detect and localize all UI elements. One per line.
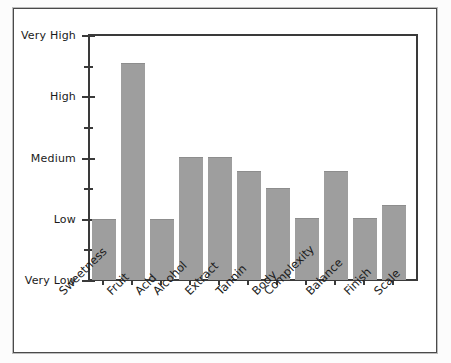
y-tick-very-high [82, 35, 95, 37]
plot-area: Very Low Low Medium High Very High Sweet… [0, 0, 451, 363]
y-tick-label-high: High [50, 90, 76, 103]
y-tick-medium [82, 158, 95, 160]
bar-fruit [121, 63, 145, 280]
y-tick-minor-2-5 [84, 127, 93, 129]
y-tick-minor-3-5 [84, 66, 93, 68]
y-tick-minor-1-5 [84, 188, 93, 190]
plot-right-border [416, 35, 418, 281]
chart-figure: Very Low Low Medium High Very High Sweet… [0, 0, 451, 363]
y-tick-label-medium: Medium [31, 152, 76, 165]
y-tick-very-low [82, 280, 95, 282]
y-tick-label-low: Low [54, 213, 76, 226]
y-tick-label-very-high: Very High [21, 29, 76, 42]
plot-top-border [88, 34, 418, 36]
y-tick-high [82, 96, 95, 98]
